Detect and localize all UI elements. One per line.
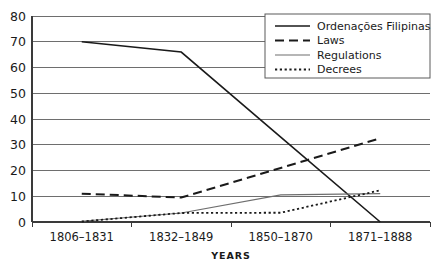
x-axis-ticks xyxy=(32,222,430,227)
y-tick-label: 30 xyxy=(10,137,26,152)
legend-label-3: Decrees xyxy=(317,63,362,76)
x-axis-tick-labels: 1806–18311832–18491850–18701871–1888 xyxy=(50,230,413,244)
x-tick-label: 1832–1849 xyxy=(149,230,213,244)
y-tick-label: 50 xyxy=(10,86,26,101)
y-tick-label: 40 xyxy=(10,112,26,127)
line-chart: 01020304050607080 1806–18311832–18491850… xyxy=(0,0,439,268)
x-tick-label: 1850–1870 xyxy=(249,230,313,244)
x-tick-label: 1806–1831 xyxy=(50,230,114,244)
x-axis-title: YEARS xyxy=(210,250,250,261)
y-tick-label: 0 xyxy=(18,215,26,230)
chart-legend: Ordenações FilipinasLawsRegulationsDecre… xyxy=(265,14,431,78)
x-tick-label: 1871–1888 xyxy=(348,230,412,244)
legend-label-2: Regulations xyxy=(317,49,382,62)
legend-label-0: Ordenações Filipinas xyxy=(317,20,431,33)
legend-label-1: Laws xyxy=(317,34,345,47)
series-line-1 xyxy=(82,138,381,197)
y-tick-label: 60 xyxy=(10,60,26,75)
y-tick-label: 20 xyxy=(10,163,26,178)
y-tick-label: 70 xyxy=(10,34,26,49)
chart-canvas: 01020304050607080 1806–18311832–18491850… xyxy=(0,0,439,268)
y-tick-label: 80 xyxy=(10,9,26,24)
y-tick-label: 10 xyxy=(10,189,26,204)
y-axis-tick-labels: 01020304050607080 xyxy=(10,9,26,230)
